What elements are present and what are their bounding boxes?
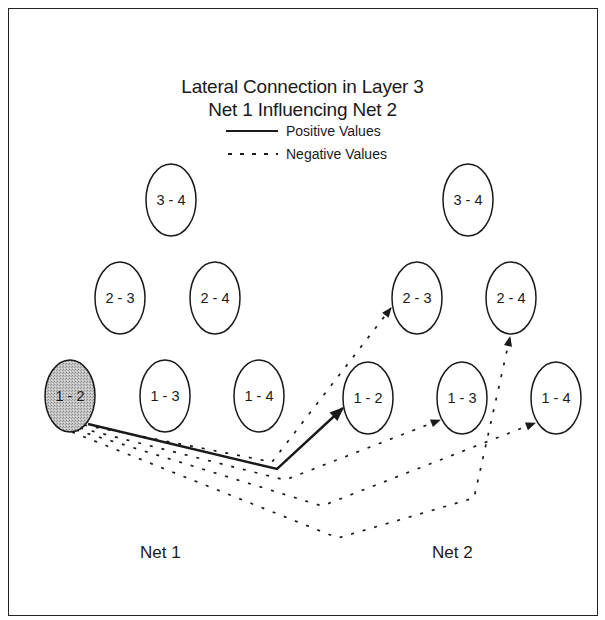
net-2-nodes: 3 - 4 2 - 3 2 - 4 1 - 2 1 - 3 1 - 4	[343, 164, 581, 434]
node-net2-2-3[interactable]: 2 - 3	[392, 262, 442, 334]
node-label: 2 - 3	[105, 290, 134, 306]
net-1-nodes: 3 - 4 2 - 3 2 - 4 1 - 2 1 - 3 1 - 4	[45, 164, 284, 432]
node-net2-2-4[interactable]: 2 - 4	[486, 262, 536, 334]
node-net1-2-4[interactable]: 2 - 4	[190, 262, 240, 334]
node-net1-1-3[interactable]: 1 - 3	[140, 360, 190, 432]
node-label: 1 - 2	[55, 388, 84, 404]
node-label: 1 - 3	[150, 388, 179, 404]
node-net2-1-4[interactable]: 1 - 4	[531, 362, 581, 434]
node-net1-1-4[interactable]: 1 - 4	[234, 360, 284, 432]
node-label: 3 - 4	[156, 192, 185, 208]
node-label: 2 - 4	[496, 290, 525, 306]
node-net1-3-4[interactable]: 3 - 4	[146, 164, 196, 236]
node-label: 1 - 2	[353, 390, 382, 406]
node-net1-2-3[interactable]: 2 - 3	[95, 262, 145, 334]
node-label: 2 - 3	[402, 290, 431, 306]
connection-to-net2-1-4	[76, 423, 535, 506]
legend-positive-label: Positive Values	[286, 123, 381, 139]
legend-negative-label: Negative Values	[286, 146, 387, 162]
node-net2-1-2[interactable]: 1 - 2	[343, 362, 393, 434]
connection-to-net2-2-4	[72, 337, 510, 538]
node-net1-1-2-highlighted[interactable]: 1 - 2	[45, 360, 95, 432]
node-net2-3-4[interactable]: 3 - 4	[443, 164, 493, 236]
node-label: 1 - 4	[541, 390, 570, 406]
node-label: 1 - 4	[244, 388, 273, 404]
node-label: 3 - 4	[453, 192, 482, 208]
node-label: 2 - 4	[200, 290, 229, 306]
net-2-label: Net 2	[432, 543, 473, 563]
node-label: 1 - 3	[447, 390, 476, 406]
connection-to-net2-1-2	[88, 408, 343, 469]
node-net2-1-3[interactable]: 1 - 3	[437, 362, 487, 434]
net-1-label: Net 1	[140, 543, 181, 563]
diagram-canvas: 3 - 4 2 - 3 2 - 4 1 - 2 1 - 3 1 - 4 3 - …	[0, 0, 605, 620]
